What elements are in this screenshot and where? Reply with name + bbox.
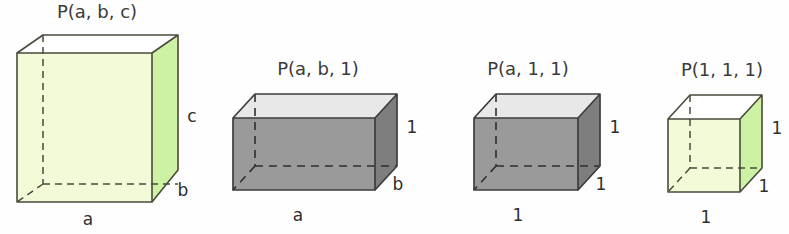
box-a11-title: P(a, 1, 1) <box>487 58 569 79</box>
box-111-height-label: 1 <box>772 118 783 138</box>
box-abc-height-label: c <box>187 106 196 126</box>
box-abc-front-face <box>17 53 152 202</box>
box-ab1-group: P(a, b, 1) 1 b a <box>233 58 417 225</box>
box-a11-group: P(a, 1, 1) 1 1 1 <box>474 58 620 225</box>
box-abc-group: P(a, b, c) c b a <box>17 1 197 229</box>
box-ab1-depth-label: b <box>393 174 404 194</box>
box-ab1-height-label: 1 <box>407 117 418 137</box>
box-ab1-width-label: a <box>293 205 303 225</box>
box-ab1-title: P(a, b, 1) <box>277 58 359 79</box>
figure-container: P(a, b, c) c b a P(a, b, 1) 1 b a P(a, 1… <box>0 0 789 234</box>
box-abc-side-face <box>152 35 178 202</box>
box-a11-width-label: 1 <box>513 205 524 225</box>
box-abc-title: P(a, b, c) <box>57 1 137 22</box>
box-abc-top-face <box>17 35 178 53</box>
box-ab1-top-face <box>233 94 397 118</box>
boxes-diagram: P(a, b, c) c b a P(a, b, 1) 1 b a P(a, 1… <box>0 0 789 234</box>
box-abc-width-label: a <box>83 209 93 229</box>
box-a11-front-face <box>474 118 578 190</box>
box-111-depth-label: 1 <box>759 176 770 196</box>
box-abc-depth-label: b <box>178 180 189 200</box>
box-111-width-label: 1 <box>701 207 712 227</box>
box-a11-depth-label: 1 <box>596 174 607 194</box>
box-111-group: P(1, 1, 1) 1 1 1 <box>668 59 782 227</box>
box-111-title: P(1, 1, 1) <box>681 59 763 80</box>
box-a11-height-label: 1 <box>610 117 621 137</box>
